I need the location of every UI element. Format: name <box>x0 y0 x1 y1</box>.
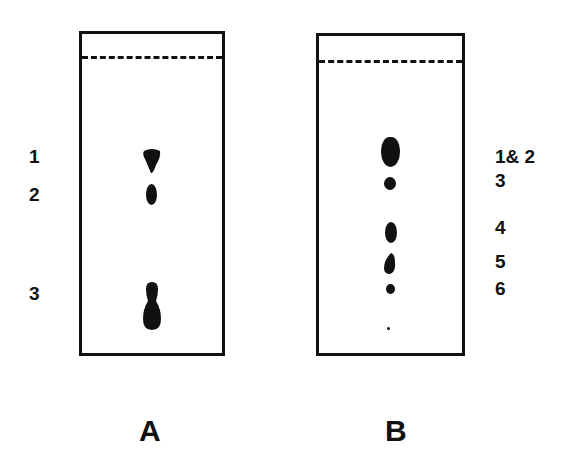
label-b-4: 4 <box>495 218 506 237</box>
spot-b3 <box>384 177 396 190</box>
spot-a3 <box>142 281 162 331</box>
solvent-front-a <box>82 56 222 59</box>
spot-a2 <box>146 184 157 205</box>
spot-b1-2 <box>381 137 400 167</box>
label-b-5: 5 <box>495 252 506 271</box>
spot-b-origin <box>387 327 390 330</box>
label-a-2: 2 <box>29 185 40 204</box>
spot-b4 <box>385 222 397 243</box>
caption-b: B <box>385 416 407 446</box>
spot-a1 <box>142 148 162 175</box>
plate-b <box>316 33 465 356</box>
spot-b5 <box>383 252 397 275</box>
spot-b6 <box>386 284 395 294</box>
label-b-3: 3 <box>495 171 506 190</box>
label-b-6: 6 <box>495 279 506 298</box>
label-b-1-2: 1& 2 <box>495 147 535 166</box>
label-a-1: 1 <box>29 147 40 166</box>
caption-a: A <box>139 416 161 446</box>
solvent-front-b <box>319 60 462 63</box>
label-a-3: 3 <box>29 284 40 303</box>
